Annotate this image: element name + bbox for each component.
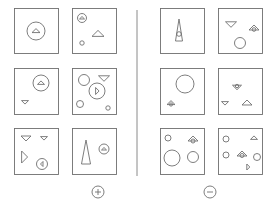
triangle-down-shape — [222, 102, 229, 105]
tall-triangle-shape — [176, 19, 183, 41]
tall-triangle-shape — [82, 140, 91, 164]
triangle-down-shape — [99, 76, 110, 81]
circle-shape — [80, 41, 84, 45]
circle-shape — [79, 75, 90, 86]
circle-shape — [37, 159, 48, 170]
triangle-up-shape — [38, 81, 45, 84]
circle-shape — [99, 144, 109, 154]
negative-panel-5 — [161, 129, 205, 175]
triangle-up-shape — [32, 29, 40, 33]
circle-shape — [165, 135, 171, 141]
positive-panel-4 — [73, 69, 117, 115]
positive-panel-2 — [73, 9, 117, 54]
positive-panel-3 — [15, 69, 59, 115]
triangle-down-shape — [41, 137, 48, 140]
triangle-down-shape — [22, 101, 29, 104]
triangle-up-shape — [188, 136, 198, 141]
circle-shape — [33, 75, 49, 91]
bongard-diagram: +− Bongard problem: positive vs negative… — [0, 0, 277, 209]
group-negative: − — [161, 9, 263, 199]
circle-shape — [106, 106, 110, 110]
triangle-right-shape — [22, 151, 28, 163]
positive-panel-6 — [73, 129, 117, 175]
positive-panel-1 — [15, 9, 59, 54]
triangle-down-shape — [226, 22, 237, 27]
panel-frame — [161, 9, 205, 54]
circle-shape — [254, 154, 261, 161]
circle-shape — [223, 136, 229, 142]
circle-shape — [223, 152, 229, 158]
panel-frame — [15, 69, 59, 115]
circle-shape — [176, 75, 194, 93]
panel-frame — [219, 69, 263, 115]
negative-panel-6 — [219, 129, 263, 175]
triangle-up-shape — [251, 136, 258, 139]
negative-panel-4 — [219, 69, 263, 115]
circle-shape — [164, 150, 180, 166]
triangle-up-shape — [80, 17, 85, 19]
circle-shape — [177, 32, 182, 37]
panel-frame — [15, 9, 59, 54]
triangle-left-shape — [41, 162, 43, 167]
negative-symbol: − — [204, 186, 216, 198]
panel-frame — [73, 129, 117, 175]
circle-shape — [78, 14, 87, 23]
circle-shape — [188, 152, 199, 163]
panel-frame — [219, 9, 263, 54]
circle-shape — [252, 28, 256, 32]
triangle-up-shape — [242, 100, 252, 105]
positive-symbol: + — [92, 186, 104, 198]
negative-panel-3 — [161, 69, 205, 115]
negative-panel-2 — [219, 9, 263, 54]
triangle-down-shape — [21, 136, 31, 141]
circle-shape — [27, 22, 45, 40]
group-positive: + — [15, 9, 117, 199]
triangle-up-shape — [92, 30, 104, 36]
panel-frame — [15, 129, 59, 175]
panel-frame — [219, 129, 263, 175]
circle-shape — [89, 83, 105, 99]
diagram-canvas: +− — [0, 0, 277, 209]
circle-shape — [235, 38, 246, 49]
triangle-right-shape — [247, 164, 250, 170]
triangle-right-shape — [96, 88, 99, 95]
positive-panel-5 — [15, 129, 59, 175]
panel-frame — [73, 9, 117, 54]
circle-shape — [77, 101, 84, 108]
triangle-up-shape — [102, 148, 107, 150]
circle-shape — [240, 154, 244, 158]
negative-panel-1 — [161, 9, 205, 54]
